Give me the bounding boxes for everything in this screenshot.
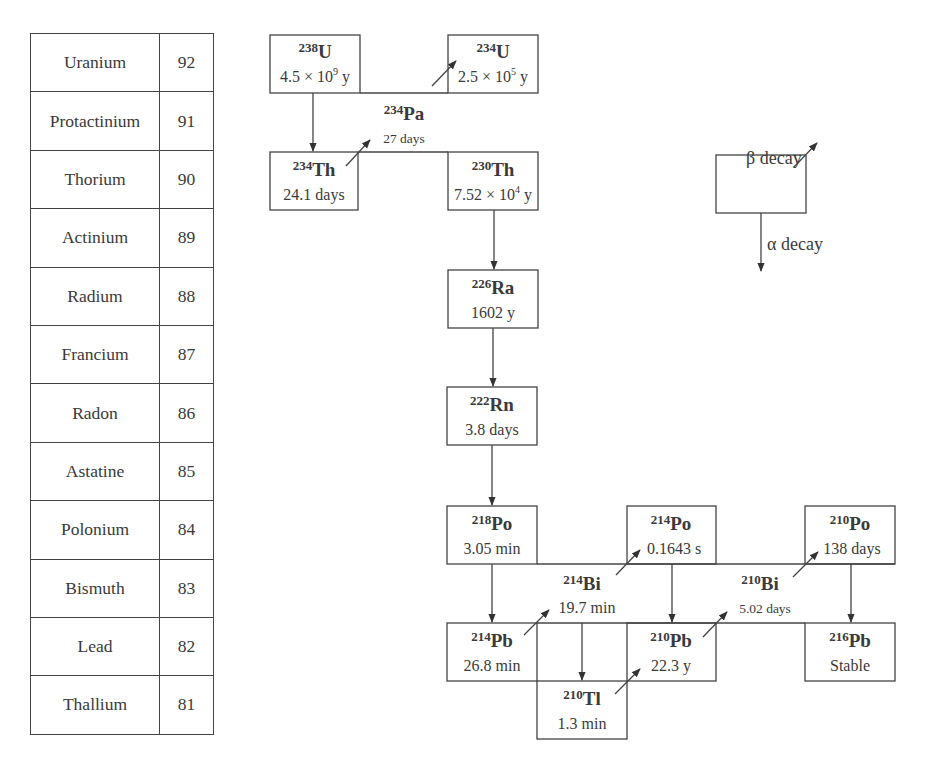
svg-text:5.02 days: 5.02 days <box>739 601 791 616</box>
nuclide-box-th234: 234Th 24.1 days <box>270 152 358 210</box>
svg-text:22.3 y: 22.3 y <box>651 657 691 675</box>
svg-text:1.3 min: 1.3 min <box>558 715 607 732</box>
arrow-pa234-to-u234 <box>432 61 456 86</box>
arrow-pb210-to-bi210 <box>703 612 727 637</box>
svg-text:27 days: 27 days <box>383 131 425 146</box>
svg-text:216Pb: 216Pb <box>829 629 871 651</box>
svg-text:26.8 min: 26.8 min <box>464 657 521 674</box>
nuclide-box-pb210: 210Pb 22.3 y <box>627 623 716 681</box>
svg-text:Stable: Stable <box>830 657 870 674</box>
legend: β decay α decay <box>716 143 823 271</box>
svg-text:214Pb: 214Pb <box>471 629 513 651</box>
svg-text:226Ra: 226Ra <box>472 276 515 298</box>
svg-text:218Po: 218Po <box>472 512 513 534</box>
legend-alpha-label: α decay <box>767 234 823 254</box>
svg-text:234Pa: 234Pa <box>384 102 425 124</box>
svg-text:230Th: 230Th <box>472 158 515 180</box>
nuclide-box-tl210: 210Tl 1.3 min <box>537 681 627 739</box>
svg-text:2.5 × 105 y: 2.5 × 105 y <box>458 66 528 86</box>
nuclide-box-po218: 218Po 3.05 min <box>447 506 537 564</box>
nuclide-cell-bi214: 214Bi 19.7 min <box>559 572 616 616</box>
svg-text:4.5 × 109 y: 4.5 × 109 y <box>280 66 350 86</box>
svg-text:19.7 min: 19.7 min <box>559 599 616 616</box>
svg-text:138 days: 138 days <box>823 540 880 558</box>
svg-text:24.1 days: 24.1 days <box>283 186 344 204</box>
svg-text:214Bi: 214Bi <box>563 572 600 594</box>
svg-text:7.52 × 104 y: 7.52 × 104 y <box>454 184 532 204</box>
svg-text:222Rn: 222Rn <box>470 393 514 415</box>
nuclide-box-pb216: 216Pb Stable <box>805 623 895 681</box>
nuclide-cell-bi210: 210Bi 5.02 days <box>739 572 791 616</box>
nuclide-cell-pa234: 234Pa 27 days <box>383 102 425 146</box>
nuclide-box-rn222: 222Rn 3.8 days <box>447 387 537 445</box>
svg-text:210Po: 210Po <box>830 512 871 534</box>
svg-text:3.8 days: 3.8 days <box>465 421 518 439</box>
svg-text:234Th: 234Th <box>293 158 336 180</box>
legend-beta-label: β decay <box>746 148 802 168</box>
nuclide-box-ra226: 226Ra 1602 y <box>448 270 538 328</box>
svg-text:238U: 238U <box>298 40 332 62</box>
decay-chain-diagram: 238U 4.5 × 109 y 234U 2.5 × 105 y 234Th … <box>0 0 927 771</box>
nuclide-box-u234: 234U 2.5 × 105 y <box>448 35 538 93</box>
svg-text:214Po: 214Po <box>651 512 692 534</box>
nuclide-box-po210: 210Po 138 days <box>805 506 895 564</box>
svg-text:210Tl: 210Tl <box>563 687 600 709</box>
nuclide-box-pb214: 214Pb 26.8 min <box>447 623 537 681</box>
nuclide-box-po214: 214Po 0.1643 s <box>627 506 716 564</box>
svg-text:210Pb: 210Pb <box>650 629 692 651</box>
svg-text:0.1643 s: 0.1643 s <box>647 540 701 557</box>
svg-text:210Bi: 210Bi <box>741 572 778 594</box>
nuclide-box-u238: 238U 4.5 × 109 y <box>270 35 360 93</box>
nuclide-box-th230: 230Th 7.52 × 104 y <box>448 152 538 210</box>
svg-text:234U: 234U <box>476 40 510 62</box>
arrow-bi214-to-po214 <box>616 550 640 575</box>
svg-text:1602 y: 1602 y <box>471 304 515 322</box>
svg-text:3.05 min: 3.05 min <box>464 540 521 557</box>
